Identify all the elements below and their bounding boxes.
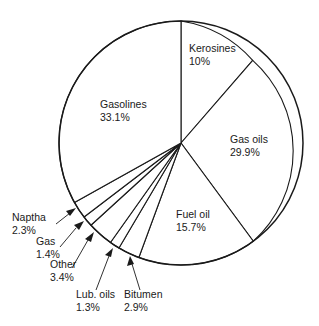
slice-label-fuel-oil-name: Fuel oil	[176, 208, 210, 220]
pie-chart-canvas	[0, 0, 319, 326]
slice-label-gas: Gas 1.4%	[36, 235, 60, 260]
slice-label-bitumen: Bitumen 2.9%	[124, 288, 163, 313]
leader-line-gas	[60, 228, 76, 247]
leader-line-bitumen	[132, 264, 140, 290]
slice-label-gas-oils-percent: 29.9%	[230, 146, 268, 159]
arrow-head-lub-oils	[105, 248, 113, 257]
slice-label-bitumen-name: Bitumen	[124, 288, 163, 300]
slice-label-other-percent: 3.4%	[50, 271, 76, 284]
slice-label-kerosines-name: Kerosines	[189, 42, 236, 54]
slice-label-fuel-oil-percent: 15.7%	[176, 221, 210, 234]
arrow-head-other	[85, 232, 94, 242]
slice-label-fuel-oil: Fuel oil 15.7%	[176, 208, 210, 233]
slice-label-lub-oils-name: Lub. oils	[76, 288, 115, 300]
leader-line-lub-oils	[96, 256, 109, 290]
slice-label-other-name: Other	[50, 258, 76, 270]
slice-label-naptha-name: Naptha	[12, 211, 46, 223]
slice-label-gas-oils-name: Gas oils	[230, 133, 268, 145]
slice-label-bitumen-percent: 2.9%	[124, 301, 163, 314]
slice-label-lub-oils-percent: 1.3%	[76, 301, 115, 314]
slice-label-gas-name: Gas	[36, 235, 55, 247]
slice-label-other: Other 3.4%	[50, 258, 76, 283]
slice-label-gasolines-percent: 33.1%	[100, 111, 147, 124]
slice-label-kerosines-percent: 10%	[189, 55, 236, 68]
pie-chart-figure: Kerosines 10% Gas oils 29.9% Fuel oil 15…	[0, 0, 319, 326]
arrow-head-bitumen	[127, 256, 134, 266]
slice-label-kerosines: Kerosines 10%	[189, 42, 236, 67]
slice-label-gasolines-name: Gasolines	[100, 98, 147, 110]
slice-label-naptha: Naptha 2.3%	[12, 211, 46, 236]
leader-line-naptha	[56, 213, 70, 224]
slice-label-gasolines: Gasolines 33.1%	[100, 98, 147, 123]
slice-label-lub-oils: Lub. oils 1.3%	[76, 288, 115, 313]
slice-label-gas-oils: Gas oils 29.9%	[230, 133, 268, 158]
